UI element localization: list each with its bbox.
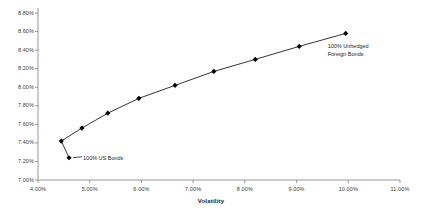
y-tick-label: 8.00%	[2, 84, 34, 90]
y-tick-label: 8.20%	[2, 65, 34, 71]
x-tick-label: 7.00%	[171, 186, 215, 192]
annotation-foreign-bonds-line1: 100% Unhedged	[328, 42, 369, 50]
y-tick-label: 7.60%	[2, 121, 34, 127]
y-tick-label: 7.40%	[2, 139, 34, 145]
x-axis-title: Volatility	[0, 198, 422, 204]
y-tick-label: 8.80%	[2, 10, 34, 16]
x-tick-label: 11.00%	[378, 186, 422, 192]
annotation-foreign-bonds-line2: Foreign Bonds	[328, 50, 364, 58]
y-tick-label: 7.00%	[2, 177, 34, 183]
x-tick-label: 5.00%	[68, 186, 112, 192]
x-tick-label: 8.00%	[223, 186, 267, 192]
x-tick-label: 4.00%	[16, 186, 60, 192]
y-tick-label: 8.60%	[2, 28, 34, 34]
x-tick-label: 9.00%	[275, 186, 319, 192]
y-tick-label: 8.40%	[2, 47, 34, 53]
x-tick-label: 10.00%	[326, 186, 370, 192]
efficient-frontier-chart: 7.00%7.20%7.40%7.60%7.80%8.00%8.20%8.40%…	[0, 0, 422, 217]
y-tick-label: 7.20%	[2, 158, 34, 164]
y-tick-label: 7.80%	[2, 102, 34, 108]
plot-area	[0, 0, 422, 217]
data-series-efficient-frontier	[59, 31, 349, 161]
annotation-us-bonds: 100% US Bonds	[83, 154, 123, 162]
annotation-leader-lines	[73, 157, 82, 158]
x-tick-label: 6.00%	[119, 186, 163, 192]
